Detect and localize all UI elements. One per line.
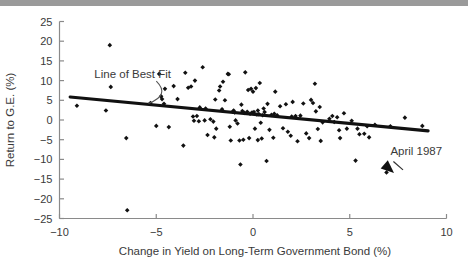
scatter-point [104,108,109,113]
x-axis-tick-labels: −10−50510 [50,226,452,238]
scatter-point [318,139,323,144]
april-1987-label: April 1987 [390,145,442,157]
scatter-point [367,135,372,140]
line-of-best-fit [70,97,428,131]
scatter-point [330,114,335,119]
scatter-point [154,124,159,129]
scatter-point [288,133,293,138]
scatter-point [218,84,223,89]
scatter-point [265,102,270,107]
y-axis-tick-label: 25 [40,16,52,28]
scatter-point [284,102,289,107]
scatter-point [75,104,80,109]
scatter-point [316,127,321,132]
scatter-point [337,128,342,133]
scatter-point [212,135,217,140]
scatter-point [214,126,219,131]
scatter-point [239,102,244,107]
y-axis-tick-label: 0 [46,114,52,126]
scatter-point [254,86,259,91]
scatter-point [253,126,258,131]
scatter-point [108,43,113,48]
scatter-point [192,118,197,123]
y-axis-tick-labels: −25−20−15−10−50510152025 [34,16,53,225]
y-axis-tick-label: −15 [34,173,53,185]
scatter-point [237,138,242,143]
line-of-best-fit-label: Line of Best Fit [94,68,172,80]
scatter-point [267,128,272,133]
scatter-point [273,89,278,94]
scatter-point [286,130,291,135]
scatter-point [175,97,180,102]
scatter-chart: −25−20−15−10−50510152025 −10−50510 Line … [0,0,468,275]
x-axis-ticks [60,214,447,219]
x-axis-title: Change in Yield on Long-Term Government … [119,245,391,257]
scatter-point [243,70,248,75]
scatter-point [241,137,246,142]
scatter-point [228,138,233,143]
scatter-point [278,104,283,109]
scatter-point [257,81,262,86]
scatter-point [221,79,226,84]
y-axis-tick-label: −20 [34,193,53,205]
scatter-point [205,133,210,138]
april-1987-arrow-shaft [393,161,403,169]
line-of-best-fit-leader [149,81,162,103]
y-axis-title: Return to G.E. (%) [4,73,16,168]
april-1987-callout: April 1987 [381,145,443,172]
y-axis-ticks [60,22,65,219]
scatter-point [403,115,408,120]
scatter-point [125,208,130,213]
x-axis-tick-label: 5 [347,226,353,238]
scatter-point [362,131,367,136]
scatter-point [335,115,340,120]
x-axis-tick-label: 10 [440,226,452,238]
scatter-point [171,84,176,89]
scatter-point [217,88,222,93]
scatter-point [191,114,196,119]
scatter-point [338,136,343,141]
x-axis-tick-label: 0 [250,226,256,238]
scatter-point [197,119,202,124]
y-axis-tick-label: 20 [40,35,52,47]
figure-container: −25−20−15−10−50510152025 −10−50510 Line … [0,0,468,275]
scatter-point [195,114,200,119]
scatter-point [167,125,172,130]
scatter-point [227,124,232,129]
scatter-point [247,136,252,141]
scatter-point [202,118,207,123]
scatter-point [313,81,318,86]
scatter-point [295,139,300,144]
scatter-point [258,120,263,125]
scatter-point [183,70,188,75]
scatter-point [357,132,362,137]
scatter-point [261,106,266,111]
scatter-point [290,100,295,105]
scatter-point [420,124,425,129]
scatter-point [163,87,168,92]
x-axis-tick-label: −10 [50,226,69,238]
scatter-point [281,126,286,131]
y-axis-tick-label: −10 [34,153,53,165]
scatter-point [301,101,306,106]
scatter-point [124,136,129,141]
y-axis-tick-label: 15 [40,55,52,67]
scatter-point [271,135,276,140]
scatter-point [317,105,322,110]
scatter-point [314,109,319,114]
scatter-point [108,85,113,90]
y-axis: −25−20−15−10−50510152025 [34,16,64,225]
scatter-point [342,111,347,116]
scatter-point [223,98,228,103]
x-axis-tick-label: −5 [150,226,163,238]
scatter-point [193,78,198,83]
scatter-point [264,159,269,164]
scatter-point [200,65,205,70]
x-axis: −10−50510 [50,214,452,238]
scatter-point [181,143,186,148]
scatter-point [355,126,360,131]
y-axis-tick-label: −5 [40,134,53,146]
scatter-point [304,131,309,136]
y-axis-tick-label: 5 [46,94,52,106]
scatter-point [345,126,350,131]
